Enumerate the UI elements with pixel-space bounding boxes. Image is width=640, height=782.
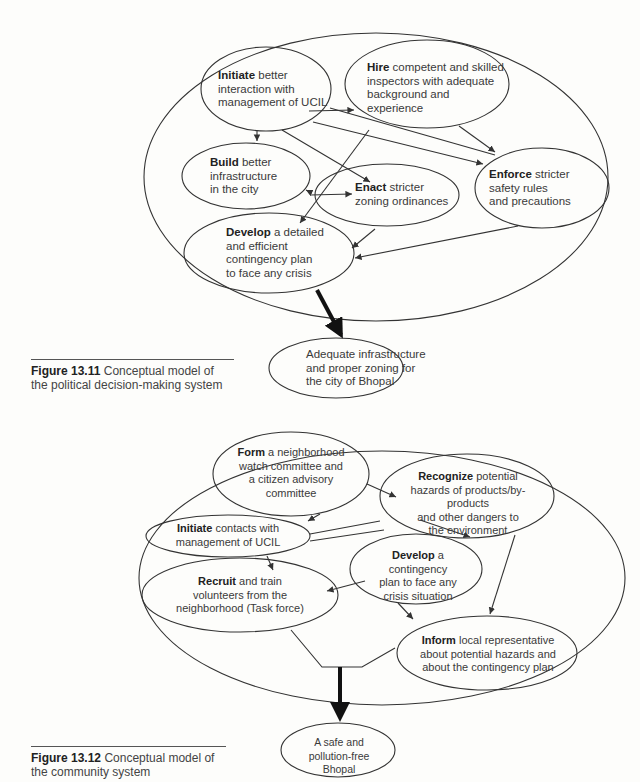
caption-rule-13-11 bbox=[31, 359, 234, 360]
figure-caption-13-12: Figure 13.12 Conceptual model of the com… bbox=[31, 751, 261, 779]
node-verb: Develop bbox=[226, 226, 271, 238]
node-form-committee: Form a neighborhood watch committee and … bbox=[228, 446, 354, 500]
node-verb: Enact bbox=[355, 181, 386, 193]
node-enact-zoning: Enact stricter zoning ordinances bbox=[355, 181, 475, 208]
node-verb: Recognize bbox=[418, 470, 473, 482]
figure-label: Figure 13.11 bbox=[31, 364, 100, 378]
node-verb: Form bbox=[237, 446, 265, 458]
node-verb: Initiate bbox=[177, 522, 212, 534]
node-initiate-contacts: Initiate contacts with management of UCI… bbox=[168, 522, 288, 549]
node-initiate-interaction: Initiate better interaction with managem… bbox=[218, 69, 348, 110]
node-inform-representative: Inform local representative about potent… bbox=[413, 634, 563, 675]
node-recruit-volunteers: Recruit and train volunteers from the ne… bbox=[170, 575, 310, 616]
node-verb: Build bbox=[210, 156, 239, 168]
node-enforce-safety: Enforce stricter safety rules and precau… bbox=[489, 168, 604, 209]
node-verb: Recruit bbox=[198, 575, 236, 587]
node-verb: Enforce bbox=[489, 168, 532, 180]
node-develop-contingency: Develop a detailed and efficient conting… bbox=[226, 226, 356, 280]
node-outcome-infrastructure: Adequate infrastructure and proper zonin… bbox=[306, 348, 436, 389]
node-verb: Inform bbox=[422, 634, 456, 646]
figure-caption-13-11: Figure 13.11 Conceptual model of the pol… bbox=[31, 364, 261, 392]
caption-rule-13-12 bbox=[31, 746, 226, 747]
node-verb: Develop bbox=[392, 549, 435, 561]
node-develop-plan: Develop a contingency plan to face any c… bbox=[363, 549, 473, 603]
node-recognize-hazards: Recognize potential hazards of products/… bbox=[398, 470, 538, 538]
node-hire-inspectors: Hire competent and skilled inspectors wi… bbox=[367, 61, 517, 115]
node-build-infrastructure: Build better infrastructure in the city bbox=[210, 156, 320, 197]
node-verb: Hire bbox=[367, 61, 389, 73]
figure-label: Figure 13.12 bbox=[31, 751, 101, 765]
output-arrow-13-11 bbox=[317, 290, 341, 335]
node-outcome-safe-bhopal: A safe and pollution-free Bhopal bbox=[292, 736, 386, 777]
node-verb: Initiate bbox=[218, 69, 255, 81]
